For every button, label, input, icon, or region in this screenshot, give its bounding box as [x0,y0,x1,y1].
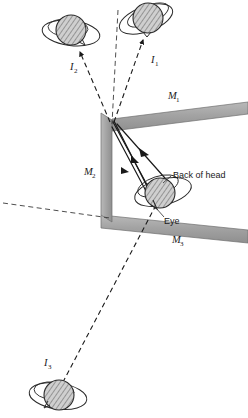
label-image-2-subscript: 2 [74,67,78,75]
head-circle-i2 [56,15,86,45]
label-mirror-2-subscript: 2 [92,172,96,180]
vertical-axis-dashed-line [112,10,118,124]
ray-arrowhead-3 [121,167,129,174]
label-mirror-3-subscript: 3 [180,240,184,248]
dashed-ray-to-i2 [80,52,110,122]
label-mirror-1-subscript: 1 [176,96,180,104]
dashed-ray-to-i1 [114,40,143,122]
virtual-image-head-i2 [41,15,102,49]
head-circle-i1 [133,3,163,33]
label-image-1: I 1 [150,54,159,68]
mirror-m2 [101,113,112,222]
mirror-m1 [112,102,248,131]
optics-ray-diagram-figure: M 1 M 2 M 3 I 1 I 2 [0,0,248,418]
dashed-ray-to-i3 [63,205,156,382]
ray-arrowhead-2 [139,148,149,157]
label-mirror-2: M 2 [83,166,96,180]
diagram-canvas: M 1 M 2 M 3 I 1 I 2 [0,0,248,418]
head-circle-observer [145,178,175,208]
label-mirror-1: M 1 [167,90,180,104]
label-image-2: I 2 [69,61,78,75]
label-back-of-head: Back of head [173,170,226,180]
label-eye: Eye [164,216,180,226]
leader-line-eye [156,208,164,217]
label-image-1-subscript: 1 [155,60,159,68]
virtual-image-head-i1 [115,0,176,40]
label-image-3-subscript: 3 [48,363,52,371]
virtual-image-head-i3 [27,379,88,413]
horizontal-axis-dashed-line [3,203,110,218]
label-image-3: I 3 [43,357,52,371]
